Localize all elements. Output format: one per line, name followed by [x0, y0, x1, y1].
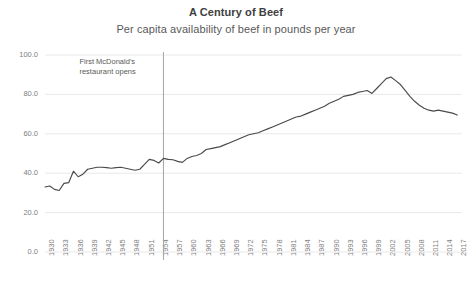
mcdonalds-annotation-line2: restaurant opens	[79, 67, 157, 77]
gridlines	[45, 55, 462, 252]
chart-container: A Century of Beef Per capita availabilit…	[0, 0, 472, 288]
mcdonalds-annotation-line1: First McDonald's	[79, 57, 157, 67]
mcdonalds-annotation-text: First McDonald's restaurant opens	[79, 57, 157, 77]
plot-area	[0, 0, 472, 288]
